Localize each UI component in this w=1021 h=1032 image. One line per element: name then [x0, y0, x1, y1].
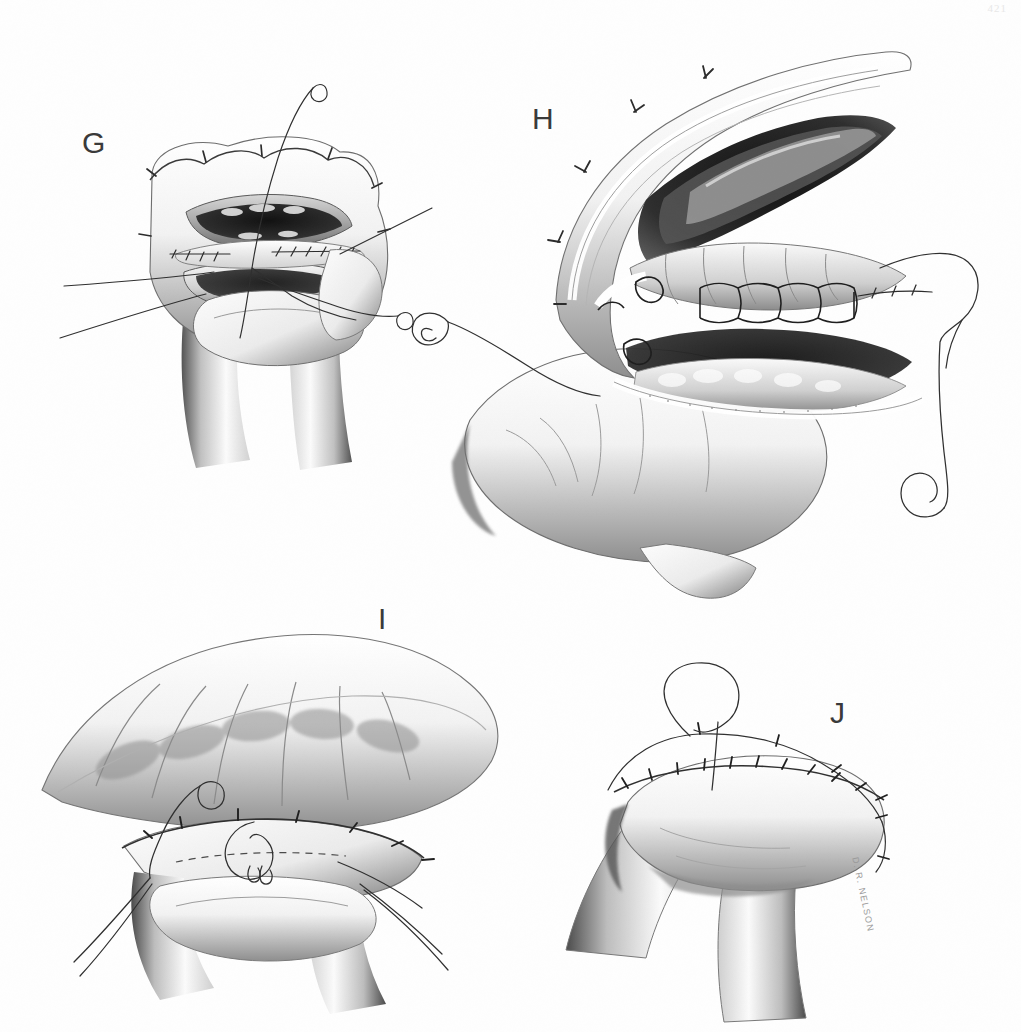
- running-suture-loops: [700, 284, 857, 323]
- atlas-plate: 421: [0, 0, 1021, 1032]
- panel-g-artwork: [60, 85, 432, 470]
- page-number: 421: [988, 2, 1008, 14]
- panel-label-g: G: [82, 128, 106, 158]
- plate-artwork: [0, 0, 1021, 1032]
- completed-suture-stitches: [622, 756, 887, 800]
- artist-signature: D. R. NELSON: [850, 856, 876, 933]
- panel-label-j: J: [830, 698, 846, 728]
- panel-h-artwork: [412, 52, 978, 599]
- panel-i-artwork: [42, 635, 498, 1014]
- panel-label-h: H: [532, 104, 555, 134]
- panel-label-i: I: [378, 604, 387, 634]
